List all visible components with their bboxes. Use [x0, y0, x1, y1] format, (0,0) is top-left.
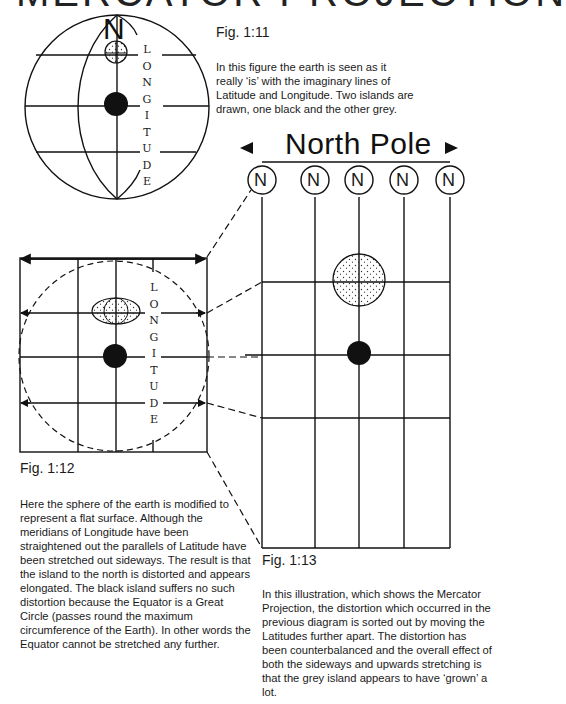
fig12-caption: Here the sphere of the earth is modified…	[20, 497, 252, 651]
longitude-pointer-bottom	[117, 170, 140, 199]
fig12-label: Fig. 1:12	[20, 460, 74, 476]
fig11-label: Fig. 1:11	[216, 24, 269, 40]
longitude-label-flat: LONGITUDE	[147, 280, 161, 429]
fig13-caption: In this illustration, which shows the Me…	[262, 587, 494, 699]
black-island	[104, 92, 128, 116]
north-pole-label: North Pole	[285, 127, 432, 161]
north-label: N	[103, 12, 125, 46]
stretched-grey-island	[92, 298, 140, 324]
longitude-label-globe: LONGITUDE	[140, 42, 154, 191]
arrow-right-icon	[445, 142, 458, 154]
fig11-caption: In this figure the earth is seen as it r…	[216, 60, 416, 116]
black-island-flat	[103, 344, 127, 368]
projection-connectors	[207, 190, 262, 548]
arrow-left-icon	[240, 142, 253, 154]
fig13-label: Fig. 1:13	[262, 552, 316, 568]
enlarged-grey-island	[333, 254, 385, 306]
black-island-mercator	[347, 341, 371, 365]
